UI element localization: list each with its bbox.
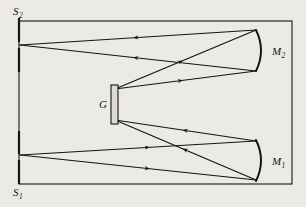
optical-diagram-figure: S2S1M2M1G: [0, 0, 306, 207]
label-m1-subscript: 1: [282, 161, 286, 170]
label-m2-subscript: 2: [282, 51, 286, 60]
label-g-base: G: [99, 98, 107, 110]
label-g: G: [99, 98, 107, 110]
label-m1-base: M: [271, 155, 282, 167]
label-s1-subscript: 1: [19, 192, 23, 201]
diffraction-grating: [111, 85, 118, 124]
diagram-canvas: S2S1M2M1G: [0, 0, 306, 207]
figure-background: [0, 0, 306, 207]
label-m2-base: M: [271, 45, 282, 57]
label-s2-subscript: 2: [19, 11, 23, 20]
